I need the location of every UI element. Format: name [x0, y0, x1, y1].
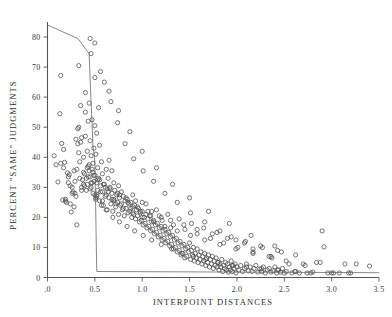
x-tick-label: .0	[44, 285, 51, 294]
y-tick-label: 50	[32, 123, 41, 132]
y-tick-label: 40	[32, 153, 41, 162]
y-tick-label: 30	[32, 183, 41, 192]
y-axis-title: PERCENT "SAME" JUDGMENTS	[8, 80, 18, 229]
plot-background	[0, 0, 392, 317]
y-tick-label: 0	[36, 274, 40, 283]
x-tick-label: 3.5	[374, 285, 385, 294]
x-tick-label: 0.5	[89, 285, 100, 294]
plot-canvas: 01020304050607080 .00.51.01.52.02.53.03.…	[0, 0, 392, 317]
x-tick-label: 2.5	[279, 285, 290, 294]
y-tick-label: 20	[32, 213, 41, 222]
y-tick-label: 70	[32, 63, 41, 72]
y-tick-label: 80	[32, 33, 41, 42]
scatter-plot-figure: 01020304050607080 .00.51.01.52.02.53.03.…	[0, 0, 392, 317]
x-tick-label: 2.0	[231, 285, 242, 294]
y-tick-label: 60	[32, 93, 41, 102]
x-tick-label: 1.0	[137, 285, 148, 294]
y-tick-label: 10	[32, 243, 41, 252]
x-axis-title: INTERPOINT DISTANCES	[153, 297, 273, 307]
x-tick-label: 3.0	[326, 285, 337, 294]
x-tick-label: 1.5	[184, 285, 195, 294]
